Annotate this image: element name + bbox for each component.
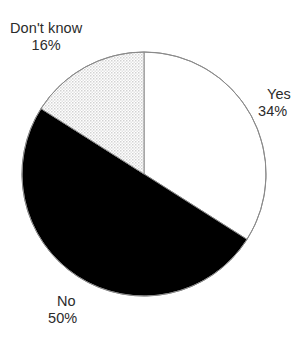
- pie-label-no-name: No: [48, 293, 77, 310]
- pie-label-dont-know-name: Don't know: [10, 20, 82, 37]
- pie-chart-figure: Don't know 16% Yes 34% No 50%: [0, 0, 303, 340]
- pie-label-yes: Yes 34%: [258, 86, 291, 119]
- pie-label-dont-know-value: 16%: [10, 37, 82, 54]
- pie-label-yes-name: Yes: [258, 86, 291, 103]
- pie-label-yes-value: 34%: [258, 103, 291, 120]
- pie-label-no-value: 50%: [48, 310, 77, 327]
- pie-label-no: No 50%: [48, 293, 77, 326]
- pie-label-dont-know: Don't know 16%: [10, 20, 82, 53]
